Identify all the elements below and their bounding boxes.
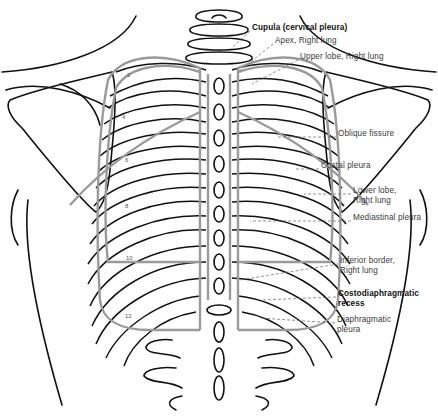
label-lower-lobe-line-2: Right lung xyxy=(353,196,396,206)
label-oblique-fissure: Oblique fissure xyxy=(338,129,394,139)
cervical-vertebrae xyxy=(186,10,252,64)
rib-number-6: 6 xyxy=(125,157,128,163)
left-arm-outline xyxy=(11,190,18,245)
label-costodiaphragmatic-recess-line-1: Costodiaphragmatic xyxy=(338,289,419,299)
label-inferior-border-line-1: Inferior border, xyxy=(340,256,395,266)
left-lung-outline xyxy=(106,66,200,262)
label-diaphragmatic-pleura: Diaphragmatic pleura xyxy=(337,315,391,334)
thoracic-vertebrae xyxy=(207,78,231,400)
label-lower-lobe: Lower lobe, Right lung xyxy=(353,186,396,205)
rib-number-12: 12 xyxy=(125,313,132,319)
lumbar-vertebra-2 xyxy=(144,367,294,388)
left-flank-outline xyxy=(27,200,62,405)
thorax-pleura-diagram xyxy=(0,0,438,420)
label-diaphragmatic-pleura-line-1: Diaphragmatic xyxy=(337,315,391,325)
rib-number-8: 8 xyxy=(125,203,128,209)
right-lung-outline xyxy=(238,66,332,262)
rib-number-10: 10 xyxy=(126,255,133,261)
label-costodiaphragmatic-recess-line-2: recess xyxy=(338,299,419,309)
label-diaphragmatic-pleura-line-2: pleura xyxy=(337,325,391,335)
lumbar-vertebra-3 xyxy=(169,396,268,410)
label-lower-lobe-line-1: Lower lobe, xyxy=(353,186,396,196)
label-cupula: Cupula (cervical pleura) xyxy=(252,23,347,33)
label-costal-pleura: Costal pleura xyxy=(321,161,371,171)
label-upper-lobe: Upper lobe, Right lung xyxy=(300,52,384,62)
label-mediastinal-pleura: Mediastinal pleura xyxy=(353,213,421,223)
label-costodiaphragmatic-recess: Costodiaphragmatic recess xyxy=(338,289,419,308)
label-inferior-border-line-2: Right lung xyxy=(340,266,395,276)
label-apex: Apex, Right lung xyxy=(275,36,337,46)
right-scapular-spine xyxy=(328,86,432,108)
left-scapular-spine xyxy=(6,86,110,108)
rib-number-4: 4 xyxy=(122,114,125,120)
rib-number-2: 2 xyxy=(127,72,130,78)
label-inferior-border: Inferior border, Right lung xyxy=(340,256,395,275)
left-neck-outline xyxy=(2,16,136,72)
